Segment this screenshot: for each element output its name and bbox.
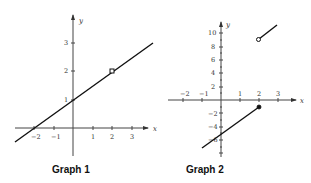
x-tick-label: 3 [130,133,134,141]
y-tick-label: 2 [211,83,215,91]
x-tick-label: −1 [199,90,209,98]
figure: x y −2 −1 1 2 3 1 2 3 Graph 1 [0,0,311,183]
y-tick-label: −4 [208,123,218,131]
y-tick-label: 4 [211,69,215,77]
closed-point [257,105,261,109]
y-tick-label: −2 [208,110,218,118]
x-tick-label: 1 [238,90,242,98]
x-axis-label: x [153,125,157,133]
y-tick-label: 10 [208,29,216,37]
graph-2: x y −2 −1 1 2 3 [168,21,304,175]
function-line-right [259,25,277,39]
x-tick-label: −2 [31,133,41,141]
y-tick-label: 8 [211,43,215,51]
y-axis-label: y [78,17,84,25]
graph-1: x y −2 −1 1 2 3 1 2 3 Graph 1 [15,15,157,175]
y-tick-label: 1 [64,96,68,104]
x-tick-label: −2 [180,90,190,98]
y-tick-label: 2 [64,67,68,75]
x-tick-label: 2 [110,133,114,141]
open-point [110,69,114,73]
y-axis-label: y [225,21,231,29]
y-tick-label: 3 [64,39,68,47]
x-axis-label: x [300,97,304,105]
graph-2-caption: Graph 2 [186,164,224,175]
x-tick-label: 3 [276,90,280,98]
x-tick-label: 2 [257,90,261,98]
graph-1-caption: Graph 1 [52,164,90,175]
x-tick-label: 1 [91,133,95,141]
x-tick-label: −1 [51,133,61,141]
y-tick-label: 6 [211,56,215,64]
open-point [257,38,261,42]
